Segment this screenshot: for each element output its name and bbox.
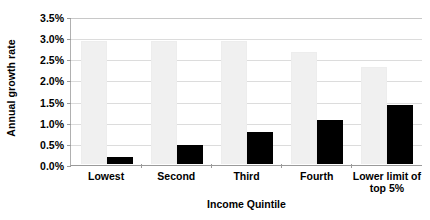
bar-light [221, 41, 247, 164]
bar-dark [107, 157, 133, 164]
x-axis-tick-mark [141, 164, 142, 168]
x-axis-tick-labels: LowestSecondThirdFourthLower limit oftop… [71, 170, 422, 194]
plot-area [70, 18, 422, 166]
bar-group [212, 18, 282, 164]
bar-light [361, 67, 387, 164]
y-axis-tick-mark [67, 39, 71, 40]
y-axis-tick-mark [67, 103, 71, 104]
y-axis-title-text: Annual growth rate [5, 39, 17, 136]
y-axis-tick-label: 2.0% [40, 75, 64, 87]
y-axis-tick-labels: 3.5%3.0%2.5%2.0%1.5%1.0%0.5%0.0% [24, 18, 68, 166]
x-axis-tick-label-line: Fourth [282, 170, 352, 182]
x-axis-tick-label-line: top 5% [352, 182, 422, 194]
bar-chart: Annual growth rate 3.5%3.0%2.5%2.0%1.5%1… [0, 0, 430, 220]
bar-group [142, 18, 212, 164]
y-axis-tick-label: 3.5% [40, 12, 64, 24]
bar-light [81, 41, 107, 164]
bar-dark [317, 120, 343, 164]
x-axis-tick-label: Third [211, 170, 281, 194]
x-axis-tick-label-line: Second [141, 170, 211, 182]
y-axis-tick-mark [67, 145, 71, 146]
bar-group [72, 18, 142, 164]
bar-dark [177, 145, 203, 164]
bar-dark [247, 132, 273, 164]
bar-group [282, 18, 352, 164]
y-axis-tick-label: 1.5% [40, 97, 64, 109]
x-axis-tick-mark [351, 164, 352, 168]
bar-dark [387, 105, 413, 164]
y-axis-tick-mark [67, 81, 71, 82]
y-axis-title: Annual growth rate [0, 0, 22, 175]
x-axis-tick-label-line: Lowest [71, 170, 141, 182]
x-axis-tick-label-line: Lower limit of [352, 170, 422, 182]
bar-light [151, 41, 177, 164]
x-axis-tick-label: Fourth [282, 170, 352, 194]
y-axis-tick-label: 1.0% [40, 118, 64, 130]
x-axis-tick-label: Second [141, 170, 211, 194]
y-axis-tick-mark [67, 124, 71, 125]
y-axis-tick-label: 0.0% [40, 160, 64, 172]
bar-groups [72, 18, 422, 164]
y-axis-tick-label: 3.0% [40, 33, 64, 45]
y-axis-tick-mark [67, 60, 71, 61]
y-axis-tick-mark [67, 166, 71, 167]
bar-light [291, 52, 317, 164]
x-axis-tick-mark [211, 164, 212, 168]
y-axis-tick-label: 2.5% [40, 54, 64, 66]
x-axis-tick-label: Lowest [71, 170, 141, 194]
bar-group [352, 18, 422, 164]
x-axis-tick-label-line: Third [211, 170, 281, 182]
x-axis-tick-label: Lower limit oftop 5% [352, 170, 422, 194]
x-axis-tick-mark [281, 164, 282, 168]
y-axis-tick-mark [67, 18, 71, 19]
x-axis-title: Income Quintile [71, 198, 422, 210]
y-axis-tick-label: 0.5% [40, 139, 64, 151]
